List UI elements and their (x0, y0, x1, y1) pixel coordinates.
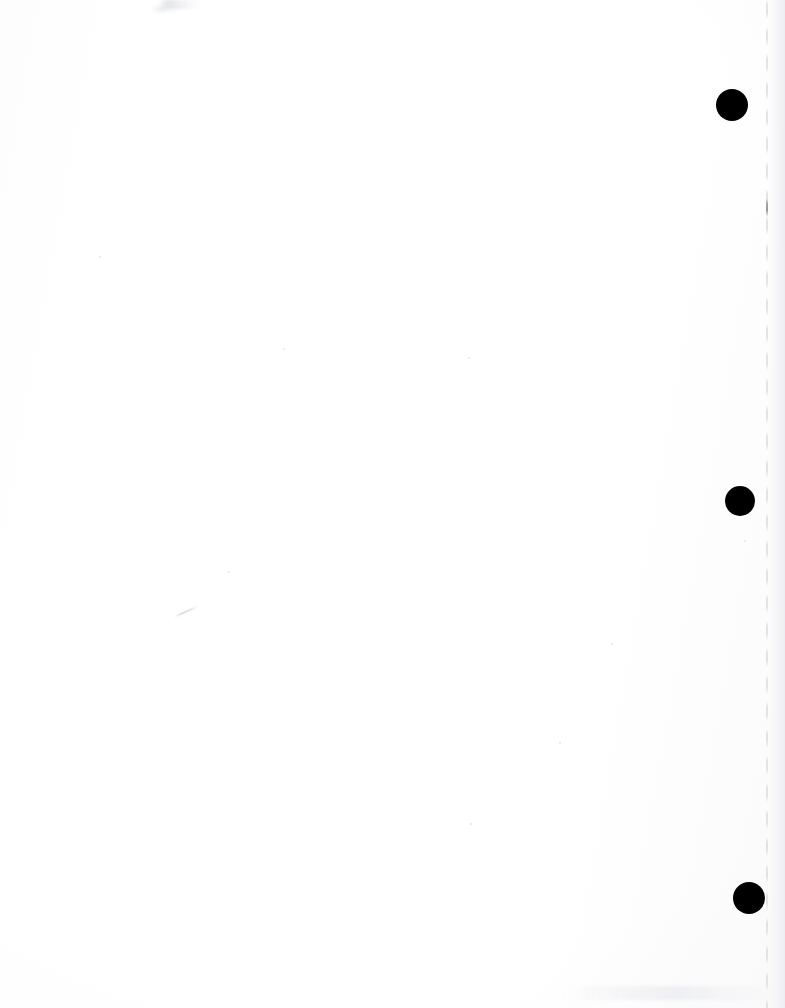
registration-mark-middle (725, 486, 755, 516)
registration-mark-top (716, 89, 748, 121)
scan-smudge-top-left-2-artifact (150, 6, 180, 12)
scan-smudge-top-left-artifact (158, 0, 202, 9)
scan-speck-icon (744, 540, 746, 542)
page-edge-shading-artifact (769, 0, 785, 1008)
scan-specks-bottom-artifact (560, 986, 775, 1000)
registration-mark-bottom (733, 882, 765, 914)
scanned-page (0, 0, 785, 1008)
scan-tick-right-margin-artifact (766, 199, 768, 217)
page-edge-line-artifact (766, 0, 768, 1008)
page-text-content (70, 60, 690, 940)
